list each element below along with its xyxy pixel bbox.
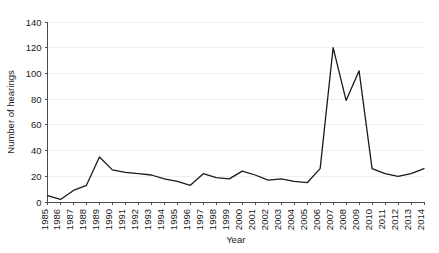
x-tick-label: 2000 xyxy=(233,209,244,230)
x-tick-label: 2002 xyxy=(259,209,270,230)
y-tick-label: 0 xyxy=(36,197,41,208)
y-tick-label: 140 xyxy=(26,17,42,28)
x-tick-label: 2007 xyxy=(324,209,335,230)
x-tick-label: 1998 xyxy=(207,209,218,230)
y-tick-label: 120 xyxy=(26,42,42,53)
x-tick-label: 1988 xyxy=(77,209,88,230)
x-tick-label: 1985 xyxy=(39,209,50,230)
x-tick-label: 1991 xyxy=(116,209,127,230)
gridlines-group xyxy=(48,22,425,176)
x-tick-label: 2008 xyxy=(337,209,348,230)
x-tick-label: 2001 xyxy=(246,209,257,230)
x-tick-label: 2011 xyxy=(376,209,387,229)
x-tick-label: 2014 xyxy=(415,209,426,230)
x-tick-label: 2003 xyxy=(272,209,283,230)
y-tick-label: 40 xyxy=(31,145,42,156)
x-tick-label: 1994 xyxy=(155,209,166,230)
x-tick-label: 2004 xyxy=(285,209,296,230)
y-axis-title: Number of hearings xyxy=(5,70,16,154)
x-tick-label: 1993 xyxy=(142,209,153,230)
x-tick-label: 1989 xyxy=(90,209,101,230)
line-chart: 020406080100120140 198519861987198819891… xyxy=(0,0,439,253)
y-tick-label: 80 xyxy=(31,94,42,105)
x-tick-label: 2005 xyxy=(298,209,309,230)
x-tick-label: 2010 xyxy=(363,209,374,230)
x-tick-label: 1990 xyxy=(103,209,114,230)
y-tick-label: 20 xyxy=(31,171,42,182)
x-axis-title: Year xyxy=(226,234,245,245)
x-tick-label: 1995 xyxy=(168,209,179,230)
x-tick-label: 1992 xyxy=(129,209,140,230)
x-tick-label: 2009 xyxy=(350,209,361,230)
chart-container: 020406080100120140 198519861987198819891… xyxy=(0,0,439,253)
x-tick-label: 1997 xyxy=(194,209,205,230)
x-tick-label: 1999 xyxy=(220,209,231,230)
x-tick-label: 2006 xyxy=(311,209,322,230)
y-tick-label: 100 xyxy=(26,68,42,79)
x-tick-label: 1987 xyxy=(64,209,75,230)
y-tick-group: 020406080100120140 xyxy=(26,17,48,208)
x-tick-label: 2013 xyxy=(402,209,413,230)
x-tick-group: 1985198619871988198919901991199219931994… xyxy=(39,202,427,230)
y-tick-label: 60 xyxy=(31,119,42,130)
x-tick-label: 1986 xyxy=(51,209,62,230)
x-tick-label: 1996 xyxy=(181,209,192,230)
x-tick-label: 2012 xyxy=(389,209,400,230)
